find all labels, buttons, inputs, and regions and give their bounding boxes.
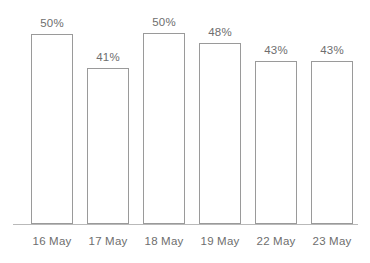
bar-rect[interactable] xyxy=(311,61,353,224)
bar-rect[interactable] xyxy=(143,33,185,224)
bar-value-label: 48% xyxy=(190,26,250,38)
x-axis-tick-label: 18 May xyxy=(134,235,194,247)
bar-value-label: 43% xyxy=(302,44,362,56)
bar-rect[interactable] xyxy=(255,61,297,224)
x-axis-tick-label: 19 May xyxy=(190,235,250,247)
bar-value-label: 43% xyxy=(246,44,306,56)
bar-rect[interactable] xyxy=(31,34,73,224)
x-axis-line xyxy=(13,224,358,225)
bar-rect[interactable] xyxy=(199,43,241,224)
bar-chart: 50% 41% 50% 48% 43% 43% 16 May 17 May 18… xyxy=(0,0,370,263)
bar-value-label: 50% xyxy=(134,16,194,28)
x-axis-tick-label: 16 May xyxy=(22,235,82,247)
x-axis-tick-label: 17 May xyxy=(78,235,138,247)
bar-value-label: 50% xyxy=(22,17,82,29)
bar-rect[interactable] xyxy=(87,68,129,224)
x-axis-tick-label: 22 May xyxy=(246,235,306,247)
x-axis-tick-label: 23 May xyxy=(302,235,362,247)
bar-value-label: 41% xyxy=(78,51,138,63)
plot-area: 50% 41% 50% 48% 43% 43% 16 May 17 May 18… xyxy=(0,0,370,263)
